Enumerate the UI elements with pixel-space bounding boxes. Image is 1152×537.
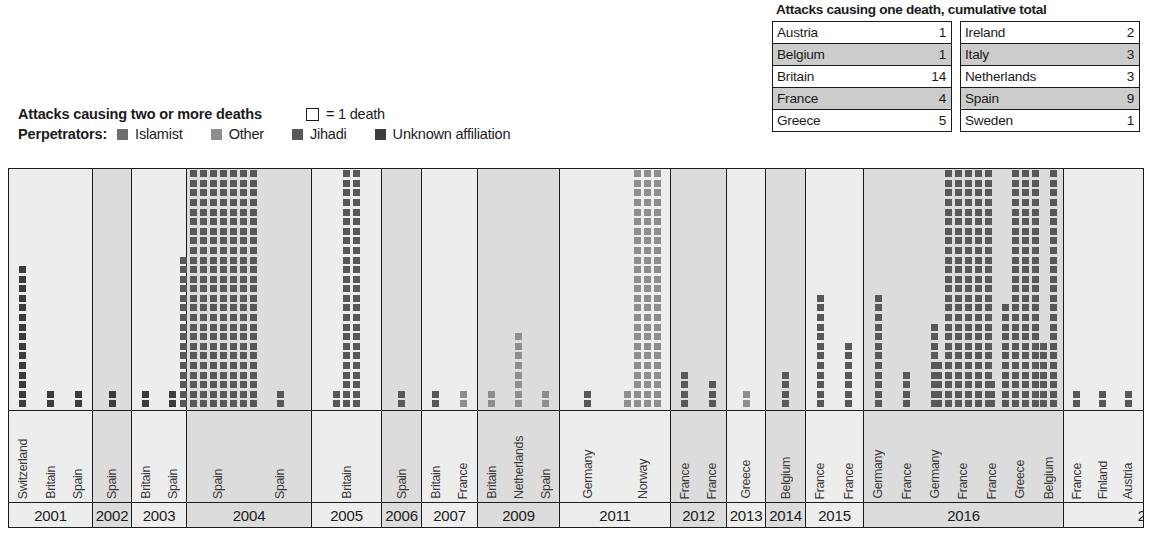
death-square: [1040, 391, 1047, 398]
attack-column[interactable]: [64, 391, 92, 410]
attack-column[interactable]: [382, 391, 421, 410]
attack-column[interactable]: [615, 170, 670, 410]
death-square: [634, 391, 641, 398]
attack-column[interactable]: [1035, 170, 1063, 410]
death-square: [985, 189, 992, 196]
attack-column[interactable]: [1115, 391, 1141, 410]
open-square-icon: [306, 108, 319, 121]
death-square: [965, 218, 972, 225]
death-square: [985, 266, 992, 273]
death-square: [955, 324, 962, 331]
death-square: [681, 381, 688, 388]
death-square: [624, 400, 631, 407]
death-squares-stack: [1073, 391, 1080, 410]
attack-column[interactable]: [671, 372, 699, 410]
death-square: [817, 372, 824, 379]
death-square: [955, 333, 962, 340]
death-square: [709, 391, 716, 398]
legend-title: Attacks causing two or more deaths: [18, 106, 262, 122]
legend-unit-label: = 1 death: [326, 106, 385, 122]
attack-column[interactable]: [835, 343, 864, 410]
year-label: 2009: [478, 502, 559, 527]
attack-column[interactable]: [1141, 352, 1144, 410]
death-square: [240, 343, 247, 350]
death-square: [845, 362, 852, 369]
death-square: [19, 362, 26, 369]
attack-column[interactable]: [766, 372, 805, 410]
attack-column[interactable]: [9, 266, 37, 410]
attack-column[interactable]: [892, 372, 920, 410]
death-square: [845, 352, 852, 359]
country-label: Britain: [340, 466, 354, 499]
death-squares-subcolumn: [240, 170, 247, 410]
death-square: [190, 237, 197, 244]
death-square: [965, 180, 972, 187]
death-square: [142, 400, 149, 407]
death-square: [277, 391, 284, 398]
death-square: [200, 304, 207, 311]
country-label: France: [705, 463, 719, 499]
death-square: [955, 381, 962, 388]
death-square: [634, 304, 641, 311]
death-square: [515, 343, 522, 350]
death-square: [945, 285, 952, 292]
death-square: [1050, 391, 1057, 398]
death-square: [875, 391, 882, 398]
table-column-left: Austria1Belgium1Britain14France4Greece5: [772, 21, 952, 132]
attack-column[interactable]: [532, 391, 559, 410]
attack-column[interactable]: [422, 391, 450, 410]
attack-column[interactable]: [1006, 170, 1035, 410]
attack-column[interactable]: [505, 333, 532, 410]
death-square: [343, 247, 350, 254]
death-square: [343, 189, 350, 196]
attack-column[interactable]: [1064, 391, 1090, 410]
attack-column[interactable]: [806, 295, 835, 410]
death-square: [945, 304, 952, 311]
country-label-cell: France: [835, 411, 864, 502]
death-square: [945, 324, 952, 331]
attack-column[interactable]: [187, 170, 250, 410]
death-square: [19, 285, 26, 292]
attack-column[interactable]: [560, 391, 615, 410]
country-label: Greece: [739, 460, 753, 499]
one-death-table: Attacks causing one death, cumulative to…: [772, 2, 1140, 132]
attack-column[interactable]: [312, 170, 381, 410]
death-square: [515, 352, 522, 359]
death-square: [1012, 218, 1019, 225]
death-square: [343, 352, 350, 359]
death-square: [1012, 266, 1019, 273]
death-square: [1002, 352, 1009, 359]
attack-column[interactable]: [864, 295, 892, 410]
death-square: [644, 372, 651, 379]
attack-column[interactable]: [37, 391, 65, 410]
death-square: [200, 391, 207, 398]
death-square: [230, 381, 237, 388]
death-square: [240, 276, 247, 283]
death-square: [1050, 199, 1057, 206]
attack-column[interactable]: [450, 391, 478, 410]
death-squares-stack: [460, 391, 467, 410]
death-square: [343, 170, 350, 177]
death-square: [432, 400, 439, 407]
attack-column[interactable]: [478, 391, 505, 410]
attack-column[interactable]: [727, 391, 765, 410]
death-square: [250, 304, 257, 311]
death-square: [644, 199, 651, 206]
year-country-labels: BritainSpain: [132, 410, 186, 502]
death-square: [644, 295, 651, 302]
death-square: [190, 333, 197, 340]
death-squares-stack: [1125, 391, 1132, 410]
death-square: [200, 352, 207, 359]
death-square: [743, 400, 750, 407]
attack-column[interactable]: [250, 391, 312, 410]
country-label: Spain: [273, 469, 287, 499]
attack-column[interactable]: [949, 170, 978, 410]
attack-column[interactable]: [93, 391, 131, 410]
attack-column[interactable]: [132, 391, 159, 410]
death-square: [220, 295, 227, 302]
attack-column[interactable]: [1090, 391, 1116, 410]
death-squares-subcolumn: [333, 391, 340, 410]
death-square: [955, 343, 962, 350]
death-square: [975, 304, 982, 311]
attack-column[interactable]: [699, 381, 727, 410]
